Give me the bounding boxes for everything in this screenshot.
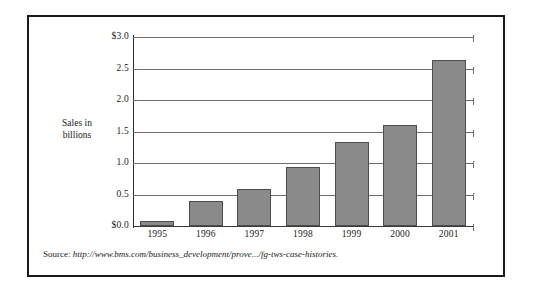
gridline (133, 226, 473, 227)
gridline (133, 132, 473, 133)
gridline-right-tick (473, 67, 474, 74)
gridline-right-tick (473, 98, 474, 105)
gridline (133, 163, 473, 164)
gridline-right-tick (473, 130, 474, 137)
gridline (133, 100, 473, 101)
x-axis-tick-label: 1997 (230, 229, 279, 239)
plot-area (133, 37, 473, 226)
x-axis-tick-label: 1995 (133, 229, 182, 239)
y-axis-tick-labels: $0.00.51.01.52.02.5$3.0 (79, 37, 129, 226)
y-axis-tick-label: 1.0 (83, 158, 129, 168)
bar-chart: Sales in billions $0.00.51.01.52.02.5$3.… (29, 17, 507, 279)
bar (432, 60, 466, 226)
bar (237, 189, 271, 226)
x-axis-tick-label: 2000 (376, 229, 425, 239)
x-axis-tick-label: 1996 (182, 229, 231, 239)
bar (189, 201, 223, 226)
source-label: Source: (43, 249, 71, 259)
x-axis-tick-label: 1998 (279, 229, 328, 239)
y-axis-tick-label: 1.5 (83, 127, 129, 137)
bar (335, 142, 369, 226)
y-axis-tick-label: 0.5 (83, 190, 129, 200)
y-axis-tick-label: $0.0 (83, 221, 129, 231)
gridline-right-tick (473, 224, 474, 231)
source-url: http://www.bms.com/business_development/… (73, 249, 338, 259)
gridline-right-tick (473, 193, 474, 200)
gridline-right-tick (473, 35, 474, 42)
gridline (133, 69, 473, 70)
source-note: Source: http://www.bms.com/business_deve… (43, 249, 493, 259)
figure-frame: Sales in billions $0.00.51.01.52.02.5$3.… (27, 15, 505, 277)
y-axis-tick-label: 2.0 (83, 95, 129, 105)
gridline-right-tick (473, 161, 474, 168)
x-axis-tick-labels: 1995199619971998199920002001 (133, 229, 473, 245)
x-axis-tick-label: 1999 (327, 229, 376, 239)
bar (383, 125, 417, 226)
bar (140, 221, 174, 226)
x-axis-tick-label: 2001 (424, 229, 473, 239)
y-axis-tick-label: $3.0 (83, 32, 129, 42)
gridline (133, 37, 473, 38)
bar (286, 167, 320, 226)
y-axis-tick-label: 2.5 (83, 64, 129, 74)
